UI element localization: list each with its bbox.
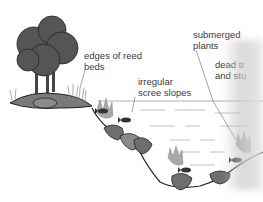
edge-fade bbox=[223, 40, 263, 190]
label-line: irregular bbox=[138, 77, 191, 88]
tree-canopy bbox=[17, 16, 78, 76]
label-line: scree slopes bbox=[138, 88, 191, 99]
scree-rocks bbox=[104, 125, 230, 190]
bank-rock bbox=[33, 98, 57, 108]
fish bbox=[95, 108, 242, 173]
label-line: beds bbox=[84, 62, 142, 73]
label-scree-slopes: irregular scree slopes bbox=[138, 77, 191, 98]
pond-diagram: edges of reed beds irregular scree slope… bbox=[0, 0, 263, 202]
label-line: submerged bbox=[193, 30, 241, 41]
label-reed-beds: edges of reed beds bbox=[84, 51, 142, 72]
label-line: edges of reed bbox=[84, 51, 142, 62]
